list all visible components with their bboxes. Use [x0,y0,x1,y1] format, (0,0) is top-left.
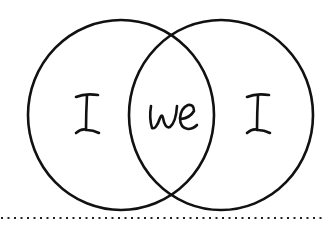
venn-diagram: I we I [0,0,330,232]
left-label: I [78,92,93,132]
right-label: I [249,92,264,132]
intersection-label: we [151,98,194,133]
